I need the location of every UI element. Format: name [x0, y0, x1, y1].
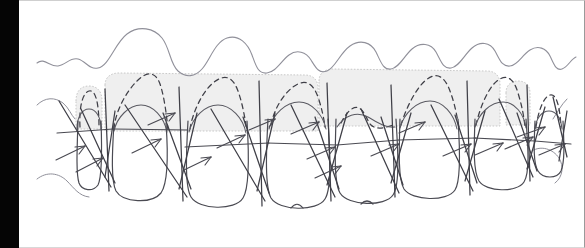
gingival-margin-left-lower: [37, 174, 89, 197]
arrow-5: [184, 157, 211, 170]
arrow-2: [76, 158, 103, 172]
arrow-9: [307, 147, 335, 159]
tooth-6-outline: [399, 119, 459, 199]
arrow-10: [315, 166, 341, 178]
mucogingival-line-group: [37, 29, 576, 76]
cej-line-8: [535, 141, 571, 144]
illustration-canvas: Periodontal anatomy line drawing: [19, 0, 585, 248]
arrow-11: [371, 144, 399, 156]
arrow-1: [56, 146, 85, 160]
gingival-margin-right-lower: [532, 148, 562, 183]
left-black-margin-bar: [0, 0, 19, 248]
tooth-7-outline: [474, 119, 528, 190]
periodontal-anatomy-drawing: [19, 1, 585, 248]
gingival-margin-right-end: [553, 99, 567, 119]
gingival-margin-left-end: [37, 99, 75, 119]
figure-root: Periodontal anatomy line drawing: [0, 0, 585, 248]
arrow-16: [517, 127, 545, 137]
arrow-13: [443, 144, 471, 156]
mucogingival-line: [37, 29, 576, 76]
tooth-2-outline: [112, 123, 167, 201]
arrow-17: [539, 144, 565, 155]
alveolar-bone-shading-group: [76, 69, 530, 131]
tooth-5-outline: [335, 119, 398, 203]
cej-line-4: [267, 143, 337, 145]
arrow-6: [217, 135, 245, 148]
cej-line-6: [399, 138, 476, 140]
arrow-14: [475, 143, 503, 155]
